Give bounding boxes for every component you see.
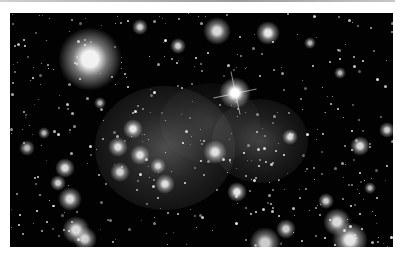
faint-star bbox=[22, 129, 23, 130]
faint-star bbox=[167, 244, 168, 245]
faint-star bbox=[198, 16, 199, 17]
faint-star bbox=[267, 202, 269, 204]
faint-star bbox=[222, 158, 225, 161]
faint-star bbox=[359, 213, 361, 215]
faint-star bbox=[12, 23, 14, 25]
faint-star bbox=[112, 241, 114, 243]
bright-star bbox=[50, 175, 66, 191]
faint-star bbox=[359, 193, 360, 194]
faint-star bbox=[153, 91, 156, 94]
faint-star bbox=[39, 74, 42, 77]
faint-star bbox=[46, 221, 48, 223]
faint-star bbox=[141, 220, 142, 221]
galaxy-cluster-photo bbox=[10, 13, 393, 247]
faint-star bbox=[53, 130, 56, 133]
faint-star bbox=[200, 160, 202, 162]
faint-star bbox=[81, 240, 82, 241]
faint-star bbox=[324, 112, 325, 113]
faint-star bbox=[263, 147, 266, 150]
faint-star bbox=[69, 31, 70, 32]
faint-star bbox=[177, 213, 179, 215]
bright-star bbox=[108, 137, 128, 157]
faint-star bbox=[61, 214, 64, 217]
faint-star bbox=[116, 135, 119, 138]
faint-star bbox=[71, 19, 73, 21]
faint-star bbox=[341, 162, 344, 165]
faint-star bbox=[52, 228, 54, 230]
bright-star bbox=[73, 227, 97, 247]
faint-star bbox=[111, 76, 113, 78]
faint-star bbox=[35, 183, 37, 185]
faint-star bbox=[58, 107, 60, 109]
faint-star bbox=[35, 32, 37, 34]
faint-star bbox=[327, 96, 328, 97]
faint-star bbox=[200, 129, 201, 130]
faint-star bbox=[375, 169, 378, 172]
faint-star bbox=[100, 73, 101, 74]
faint-star bbox=[17, 43, 20, 46]
faint-star bbox=[256, 113, 259, 116]
bright-star bbox=[276, 219, 296, 239]
faint-star bbox=[337, 108, 339, 110]
faint-star bbox=[128, 228, 131, 231]
bright-star bbox=[323, 208, 351, 236]
faint-star bbox=[25, 117, 26, 118]
bright-star bbox=[19, 140, 35, 156]
faint-star bbox=[142, 141, 143, 142]
faint-star bbox=[362, 60, 364, 62]
faint-star bbox=[114, 164, 115, 165]
faint-star bbox=[207, 52, 209, 54]
faint-star bbox=[46, 40, 47, 41]
faint-star bbox=[191, 83, 193, 85]
faint-star bbox=[159, 16, 160, 17]
faint-star bbox=[359, 172, 361, 174]
faint-star bbox=[145, 158, 148, 161]
faint-star bbox=[184, 182, 186, 184]
faint-star bbox=[157, 197, 159, 199]
faint-star bbox=[384, 85, 387, 88]
faint-star bbox=[154, 217, 155, 218]
faint-star bbox=[364, 180, 365, 181]
faint-star bbox=[200, 140, 201, 141]
faint-star bbox=[237, 54, 238, 55]
faint-star bbox=[178, 18, 180, 20]
faint-star bbox=[235, 101, 237, 103]
faint-star bbox=[127, 20, 129, 22]
diffraction-spike bbox=[213, 88, 256, 98]
faint-star bbox=[351, 184, 353, 186]
faint-star bbox=[121, 57, 122, 58]
faint-star bbox=[334, 167, 337, 170]
faint-star bbox=[181, 114, 182, 115]
faint-star bbox=[46, 160, 47, 161]
faint-star bbox=[345, 44, 346, 45]
faint-star bbox=[354, 204, 356, 206]
faint-star bbox=[41, 230, 43, 232]
faint-star bbox=[84, 44, 86, 46]
faint-star bbox=[227, 172, 228, 173]
faint-star bbox=[76, 56, 78, 58]
faint-star bbox=[96, 149, 97, 150]
faint-star bbox=[301, 240, 303, 242]
faint-star bbox=[361, 228, 363, 230]
faint-star bbox=[270, 163, 273, 166]
faint-star bbox=[89, 145, 92, 148]
faint-star bbox=[302, 109, 303, 110]
faint-star bbox=[76, 211, 78, 213]
faint-star bbox=[71, 221, 73, 223]
faint-star bbox=[247, 144, 250, 147]
faint-star bbox=[29, 125, 30, 126]
faint-star bbox=[231, 133, 232, 134]
faint-star bbox=[23, 142, 25, 144]
faint-star bbox=[13, 64, 14, 65]
faint-star bbox=[391, 140, 393, 143]
faint-star bbox=[237, 203, 238, 204]
bright-star bbox=[282, 129, 298, 145]
faint-star bbox=[49, 200, 50, 201]
faint-star bbox=[385, 180, 386, 181]
faint-star bbox=[363, 199, 364, 200]
faint-star bbox=[68, 83, 71, 86]
faint-star bbox=[152, 185, 155, 188]
faint-star bbox=[121, 62, 122, 63]
faint-star bbox=[177, 43, 178, 44]
faint-star bbox=[52, 205, 54, 207]
